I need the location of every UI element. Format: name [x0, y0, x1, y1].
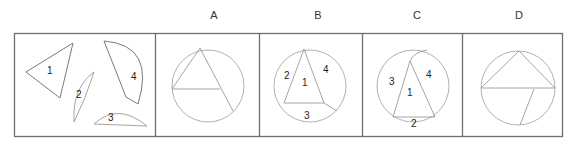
option-b-piece-2-label: 2 — [284, 70, 290, 81]
piece-4-segment: 4 — [104, 41, 143, 104]
piece-3-segment: 3 — [94, 112, 147, 126]
option-c-piece-4-label: 4 — [426, 69, 432, 80]
option-a-figure[interactable] — [172, 48, 244, 122]
question-panel: 1 2 3 4 — [26, 41, 147, 126]
piece-1-triangle: 1 — [26, 43, 73, 98]
piece-1-label: 1 — [47, 65, 53, 76]
piece-4-label: 4 — [131, 71, 137, 82]
option-c-figure[interactable]: 3 1 4 2 — [377, 50, 449, 129]
piece-2-label: 2 — [76, 89, 82, 100]
option-b-piece-1-label: 1 — [302, 77, 308, 88]
option-c-piece-3-label: 3 — [389, 76, 395, 87]
option-b-piece-4-label: 4 — [323, 64, 329, 75]
option-d-figure[interactable] — [481, 51, 555, 125]
option-b-figure[interactable]: 2 1 4 3 — [274, 49, 346, 122]
option-c-piece-2-label: 2 — [411, 118, 417, 129]
option-b-piece-3-label: 3 — [304, 110, 310, 121]
puzzle-figure: 1 2 3 4 2 1 4 3 — [0, 0, 579, 151]
option-c-piece-1-label: 1 — [407, 87, 413, 98]
outer-frame — [15, 34, 563, 137]
piece-3-label: 3 — [108, 112, 114, 123]
panel-grid — [15, 34, 563, 137]
piece-2-segment: 2 — [74, 72, 94, 122]
